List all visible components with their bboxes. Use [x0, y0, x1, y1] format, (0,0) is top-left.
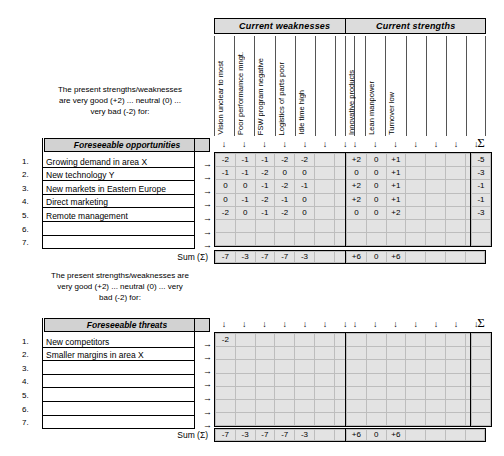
matrix-cell [275, 374, 294, 386]
matrix-cell [367, 387, 386, 399]
list-item[interactable]: 4.→ [22, 375, 212, 389]
down-arrow-icon: ↓ [406, 140, 426, 149]
list-item[interactable]: 7.→ [22, 416, 212, 430]
list-header-threats: Foreseeable threats [44, 318, 210, 332]
down-arrow-icon: ↓ [426, 320, 446, 329]
matrix-cell [387, 347, 406, 359]
column-label-text: Vision unclear to most [216, 61, 225, 135]
column-sum-cell: -3 [295, 430, 314, 440]
column-label-text: Poor performamce mngt. [236, 52, 245, 135]
matrix-cell [347, 233, 366, 245]
list-item[interactable]: 1.New competitors→ [22, 334, 212, 348]
swot-matrix-page: Current weaknessesCurrent strengthsVisio… [0, 0, 504, 456]
matrix-cell [446, 207, 465, 219]
list-item[interactable]: 6.→ [22, 402, 212, 416]
matrix-cell [275, 400, 294, 412]
matrix-cell [426, 220, 445, 232]
list-item[interactable]: 2.New technology Y→ [22, 168, 212, 182]
matrix-cell: +2 [347, 180, 366, 192]
down-arrow-icon: ↓ [406, 320, 426, 329]
matrix-cell [216, 347, 235, 359]
down-arrow-icon: ↓ [345, 140, 365, 149]
matrix-cell [256, 360, 275, 372]
row-sums-opportunities: -5-3-1-1-3 [470, 152, 492, 247]
column-label-1-5 [446, 36, 466, 136]
matrix-cell [315, 347, 334, 359]
list-item[interactable]: 3.→ [22, 361, 212, 375]
matrix-cell [406, 220, 425, 232]
matrix-cell [236, 374, 255, 386]
matrix-cell [406, 387, 425, 399]
list-item[interactable]: 1.Growing demand in area X→ [22, 154, 212, 168]
matrix-cell: -2 [275, 207, 294, 219]
matrix-cell [315, 360, 334, 372]
matrix-cell [367, 374, 386, 386]
column-label-1-4 [426, 36, 446, 136]
matrix-cell [367, 220, 386, 232]
matrix-cell [236, 360, 255, 372]
matrix-cell [236, 387, 255, 399]
matrix-cell: +1 [387, 194, 406, 206]
column-sum-cell: +6 [347, 252, 366, 262]
column-sum-cell: +6 [387, 430, 406, 440]
down-arrow-icon: ↓ [426, 140, 446, 149]
list-item[interactable]: 7.→ [22, 236, 212, 250]
list-item[interactable]: 2.Smaller margins in area X→ [22, 348, 212, 362]
list-item-number: 1. [22, 157, 40, 167]
list-item[interactable]: 5.Remote management→ [22, 208, 212, 222]
right-arrow-icon: → [203, 420, 212, 430]
column-sum-cell [406, 430, 425, 440]
column-sum-cell [406, 252, 425, 262]
matrix-cell [426, 180, 445, 192]
matrix-cell [275, 360, 294, 372]
matrix-cell [387, 334, 406, 346]
column-sum-cell: -7 [275, 252, 294, 262]
list-item[interactable]: 5.→ [22, 388, 212, 402]
matrix-cell [367, 360, 386, 372]
down-arrow-icon: ↓ [275, 140, 295, 149]
list-item[interactable]: 3.New markets in Eastern Europe→ [22, 181, 212, 195]
matrix-cell [406, 180, 425, 192]
column-sum-cell: -7 [216, 430, 235, 440]
list-item-number: 7. [22, 238, 40, 248]
list-item-number: 6. [22, 225, 40, 235]
matrix-cell [406, 334, 425, 346]
list-item[interactable]: 6.→ [22, 222, 212, 236]
matrix-cell [406, 194, 425, 206]
column-label-text: Idle time high [297, 90, 306, 135]
sum-label-threats: Sum (Σ) [150, 430, 208, 442]
list-item-label: New markets in Eastern Europe [46, 184, 166, 194]
matrix-cell: 0 [275, 167, 294, 179]
matrix-cell: -1 [256, 207, 275, 219]
matrix-cell [367, 400, 386, 412]
matrix-cell [367, 413, 386, 425]
right-arrow-icon: → [203, 240, 212, 250]
matrix-cell [367, 334, 386, 346]
matrix-cell: -2 [275, 180, 294, 192]
list-frame-right [194, 318, 195, 429]
matrix-threats-weaknesses: -2 [214, 332, 355, 427]
column-label-text: Innovative products [347, 70, 356, 135]
column-sum-cell [466, 252, 485, 262]
matrix-cell: -2 [256, 167, 275, 179]
matrix-cell [256, 413, 275, 425]
matrix-cell [446, 347, 465, 359]
down-arrow-icon: ↓ [214, 140, 234, 149]
group-header-weaknesses: Current weaknesses [214, 18, 355, 34]
matrix-cell: 0 [236, 207, 255, 219]
list-item-number: 1. [22, 337, 40, 347]
list-item-number: 7. [22, 418, 40, 428]
matrix-cell [387, 220, 406, 232]
column-label-0-1: Poor performamce mngt. [234, 36, 254, 136]
list-item-label: Direct marketing [46, 197, 108, 207]
matrix-cell [275, 233, 294, 245]
matrix-cell [446, 220, 465, 232]
list-item[interactable]: 4.Direct marketing→ [22, 195, 212, 209]
matrix-opportunities-weaknesses: -2-1-1-2-2-1-1-20000-1-2-10-1-2-10-20-1-… [214, 152, 355, 247]
column-sum-cell [315, 430, 334, 440]
matrix-cell [426, 167, 445, 179]
matrix-cell: -2 [216, 334, 235, 346]
list-item-label: Remote management [46, 211, 128, 221]
matrix-cell [446, 154, 465, 166]
down-arrow-icon: ↓ [214, 320, 234, 329]
